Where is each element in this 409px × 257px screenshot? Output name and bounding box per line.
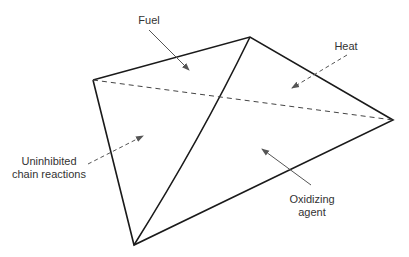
fuel-arrow: [149, 30, 189, 70]
fuel-label: Fuel: [136, 14, 162, 27]
oxidizing-agent-label: Oxidizing agent: [284, 193, 340, 219]
chain-reactions-arrow: [88, 136, 143, 164]
hidden-edge: [93, 80, 393, 120]
oxidizing-agent-line1: Oxidizing: [284, 193, 340, 206]
chain-reactions-label: Uninhibited chain reactions: [10, 155, 88, 181]
fire-tetrahedron-diagram: Fuel Heat Uninhibited chain reactions Ox…: [0, 0, 409, 257]
oxidizing-agent-line2: agent: [284, 206, 340, 219]
chain-reactions-line1: Uninhibited: [10, 155, 88, 168]
heat-label: Heat: [332, 40, 360, 53]
tetrahedron-drawing: [0, 0, 409, 257]
chain-reactions-line2: chain reactions: [10, 168, 88, 181]
front-edge: [134, 37, 250, 245]
heat-arrow: [292, 55, 347, 88]
outer-edges: [93, 37, 393, 245]
